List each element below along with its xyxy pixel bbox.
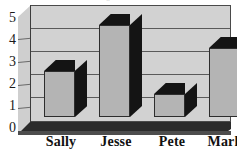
bar-front-face: [99, 25, 130, 117]
bar-jesse: [99, 25, 130, 117]
plot-area: [18, 5, 231, 130]
wall-corner-edge: [30, 5, 31, 122]
y-tick-0: 0: [0, 123, 16, 133]
x-label-jesse: Jesse: [85, 134, 147, 150]
x-label-sally: Sally: [30, 134, 92, 150]
y-tick-1: 1: [0, 101, 16, 111]
bar-pete: [154, 94, 185, 117]
bar-mark: [209, 48, 237, 117]
x-label-pete: Pete: [141, 134, 203, 150]
bar-side-face: [130, 14, 142, 117]
bar-front-face: [44, 71, 75, 117]
y-tick-4: 4: [0, 35, 16, 45]
y-tick-2: 2: [0, 79, 16, 89]
y-tick-5: 5: [0, 13, 16, 23]
y-axis: 5 4 3 2 1 0: [0, 0, 16, 140]
x-label-mark: Mark: [195, 134, 237, 150]
bar-sally: [44, 71, 75, 117]
bar-front-face: [154, 94, 185, 117]
bar-chart: ·· 5 4 3 2 1 0: [0, 0, 237, 156]
bar-front-face: [209, 48, 237, 117]
y-tick-3: 3: [0, 57, 16, 67]
clipped-chart-title: ··: [106, 0, 124, 3]
